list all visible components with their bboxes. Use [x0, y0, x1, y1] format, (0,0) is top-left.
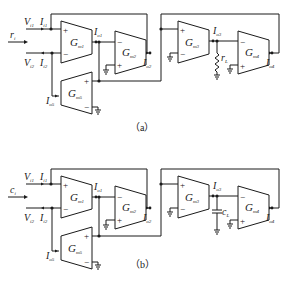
panel-b: ci Vi1 Ii1 Vi2 Ii2 + − Gm1 Io1 − +	[8, 169, 279, 270]
amp-gm4: − + Gm4	[238, 31, 269, 74]
svg-text:+: +	[63, 180, 68, 190]
svg-text:Vi1: Vi1	[24, 171, 34, 183]
svg-text:+: +	[117, 60, 122, 70]
svg-text:−: −	[180, 49, 185, 59]
input-sub: i	[14, 36, 16, 41]
amp-gm4: − + Gm4	[238, 186, 269, 229]
svg-text:ci: ci	[10, 184, 16, 196]
svg-text:cL: cL	[222, 206, 229, 218]
svg-text:−: −	[180, 204, 185, 214]
svg-text:+: +	[117, 215, 122, 225]
svg-text:Io3: Io3	[212, 25, 222, 37]
svg-text:Vi2: Vi2	[24, 212, 34, 224]
input-arrow: ci	[8, 184, 28, 199]
amp-gm3: + − Gm3	[178, 176, 209, 218]
svg-text:Io3: Io3	[212, 180, 222, 192]
svg-text:+: +	[84, 76, 89, 86]
caption-b: （b）	[130, 259, 155, 270]
amp-gm2: − + Gm2	[115, 186, 146, 229]
svg-text:Io4: Io4	[265, 57, 275, 69]
svg-text:Io2: Io2	[142, 212, 152, 224]
svg-text:+: +	[84, 231, 89, 241]
svg-text:rL: rL	[221, 52, 228, 64]
svg-text:−: −	[63, 204, 68, 214]
amp-gm2: − + Gm2	[115, 31, 146, 74]
svg-text:Vi2: Vi2	[24, 57, 34, 69]
node-io2	[149, 52, 152, 55]
svg-text:−: −	[63, 49, 68, 59]
svg-text:+: +	[240, 61, 245, 71]
amp-gm5: + − Gm5	[61, 227, 92, 269]
amp-gm3: + − Gm3	[178, 21, 209, 63]
svg-text:−: −	[84, 257, 89, 267]
svg-text:Ii1: Ii1	[39, 16, 47, 28]
svg-text:+: +	[63, 25, 68, 35]
svg-text:Io5: Io5	[45, 250, 55, 262]
svg-text:Io5: Io5	[45, 95, 55, 107]
load-resistor: rL	[214, 41, 228, 79]
svg-text:−: −	[84, 102, 89, 112]
svg-text:Io4: Io4	[265, 212, 275, 224]
input-arrow: ri	[8, 29, 28, 44]
caption-a: （a）	[130, 122, 154, 133]
io5-wire	[52, 53, 59, 96]
load-capacitor: cL	[212, 196, 229, 234]
svg-text:ri: ri	[10, 29, 16, 41]
svg-text:+: +	[240, 216, 245, 226]
svg-text:+: +	[180, 25, 185, 35]
svg-text:Ii1: Ii1	[39, 171, 47, 183]
amp-gm1: + − Gm1	[61, 176, 92, 218]
node-io4	[271, 52, 274, 55]
circuit-figure: ri Vi1 Ii1 Vi2 Ii2 + − Gm1 Io1	[0, 0, 286, 282]
svg-text:Io1: Io1	[93, 26, 102, 38]
io1-down-wire	[92, 42, 99, 81]
amp-gm1: + − Gm1	[61, 21, 92, 63]
svg-text:Ii2: Ii2	[39, 212, 48, 224]
svg-text:Io1: Io1	[93, 181, 102, 193]
amp-gm5: + − Gm5	[61, 72, 92, 114]
svg-text:+: +	[180, 180, 185, 190]
panel-a: ri Vi1 Ii1 Vi2 Ii2 + − Gm1 Io1	[8, 14, 279, 133]
svg-text:Ii2: Ii2	[39, 57, 48, 69]
svg-text:Io2: Io2	[142, 57, 152, 69]
svg-text:Vi1: Vi1	[24, 16, 34, 28]
